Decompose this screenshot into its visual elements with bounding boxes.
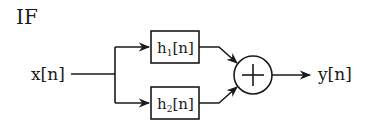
block-diagram: IF x[n] h1[n] h2[n] y[n] — [0, 0, 366, 131]
output-label: y[n] — [317, 64, 352, 84]
input-splitter — [71, 47, 149, 103]
filter-block-h2: h2[n] — [151, 87, 199, 119]
summing-junction — [234, 56, 272, 94]
block-h2-name: h — [157, 95, 167, 113]
block-h1-name: h — [157, 39, 167, 57]
block-to-summer-lines — [199, 47, 237, 103]
block-h2-suffix: [n] — [172, 95, 193, 113]
svg-text:h1[n]: h1[n] — [157, 39, 194, 58]
input-label: x[n] — [31, 64, 65, 84]
diagram-title: IF — [16, 5, 38, 29]
filter-block-h1: h1[n] — [151, 31, 199, 63]
block-h1-suffix: [n] — [172, 39, 193, 57]
svg-text:h2[n]: h2[n] — [157, 95, 194, 114]
